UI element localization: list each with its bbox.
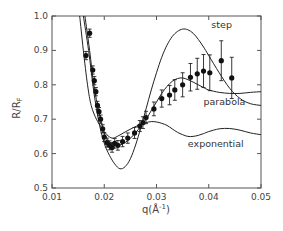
annotation-step: step [211, 19, 232, 30]
point-marker [87, 31, 92, 36]
point-marker [140, 120, 145, 125]
point-marker [93, 89, 98, 94]
point-marker [207, 70, 212, 75]
annotation-exponential: exponential [188, 138, 244, 149]
point-marker [201, 68, 206, 73]
y-tick-label: 0.6 [34, 149, 49, 159]
x-tick-label: 0.04 [199, 192, 219, 202]
point-marker [115, 143, 120, 148]
x-tick-label: 0.03 [146, 192, 166, 202]
x-tick-label: 0.02 [94, 192, 114, 202]
point-marker [83, 53, 88, 58]
data-point [172, 80, 177, 101]
point-marker [143, 115, 148, 120]
point-marker [195, 71, 200, 76]
data-point [195, 58, 200, 89]
y-tick-label: 0.8 [34, 80, 49, 90]
data-point [167, 85, 172, 104]
annotation-parabola: parabola [204, 96, 246, 107]
data-point [159, 90, 164, 107]
x-axis-label: q(Å-1) [142, 203, 170, 215]
point-marker [90, 67, 95, 72]
data-point [201, 55, 206, 88]
point-marker [159, 96, 164, 101]
point-marker [100, 126, 105, 131]
y-tick-label: 0.7 [34, 114, 48, 124]
point-marker [96, 109, 101, 114]
data-point [132, 127, 137, 138]
y-tick-label: 1.0 [34, 11, 49, 21]
point-marker [132, 130, 137, 135]
reflectivity-chart: 0.010.020.030.040.050.50.60.70.80.91.0 s… [0, 0, 283, 231]
point-marker [229, 75, 234, 80]
data-point [188, 63, 193, 91]
point-marker [120, 139, 125, 144]
x-tick-label: 0.05 [251, 192, 271, 202]
point-marker [102, 134, 107, 139]
point-marker [167, 93, 172, 98]
point-marker [180, 82, 185, 87]
data-point [180, 73, 185, 97]
x-tick-label: 0.01 [42, 192, 62, 202]
point-marker [172, 87, 177, 92]
data-point [219, 41, 224, 81]
point-marker [125, 136, 130, 141]
point-marker [98, 117, 103, 122]
y-axis-label: R/RF [11, 97, 24, 118]
point-marker [151, 106, 156, 111]
y-tick-label: 0.5 [34, 183, 48, 193]
point-marker [92, 78, 97, 83]
y-tick-label: 0.9 [34, 45, 49, 55]
point-marker [188, 75, 193, 80]
point-marker [219, 58, 224, 63]
